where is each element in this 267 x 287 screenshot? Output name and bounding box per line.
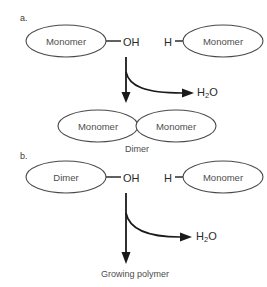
byproduct-arrow-b-head <box>180 233 192 242</box>
water-b-o: O <box>208 230 217 242</box>
water-a-o: O <box>209 86 218 98</box>
reaction-arrow-a-head <box>122 92 131 103</box>
byproduct-arrow-b-curve <box>126 213 180 237</box>
step-a-label: a. <box>20 13 28 23</box>
water-b-h: H <box>196 230 204 242</box>
condensation-polymerization-diagram: a. Monomer OH H Monomer H2O Monomer Mono… <box>0 0 267 287</box>
monomer-a-left-label: Monomer <box>46 36 86 47</box>
water-byproduct-a-label: H2O <box>197 86 218 100</box>
dimer-caption-label: Dimer <box>125 144 149 154</box>
byproduct-arrow-a-curve <box>126 72 182 93</box>
water-byproduct-b-label: H2O <box>196 230 217 244</box>
water-a-h: H <box>197 86 205 98</box>
hydroxyl-group-a-label: OH <box>123 36 140 48</box>
byproduct-arrow-a-head <box>182 89 194 98</box>
step-b-label: b. <box>20 151 28 161</box>
dimer-right-label: Monomer <box>156 121 196 132</box>
dimer-b-left-label: Dimer <box>53 172 78 183</box>
monomer-b-right-label: Monomer <box>203 172 243 183</box>
hydrogen-group-b-label: H <box>164 172 172 184</box>
dimer-left-label: Monomer <box>78 121 118 132</box>
growing-polymer-label: Growing polymer <box>101 269 169 279</box>
reaction-arrow-b-head <box>122 252 131 264</box>
monomer-a-right-label: Monomer <box>203 36 243 47</box>
hydrogen-group-a-label: H <box>164 36 172 48</box>
hydroxyl-group-b-label: OH <box>123 172 140 184</box>
